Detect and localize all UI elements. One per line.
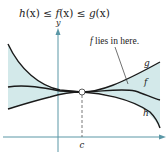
x-axis-arrow-icon xyxy=(159,135,166,140)
label-h: h xyxy=(143,108,149,118)
label-g: g xyxy=(144,58,150,68)
annotation-text: f lies in here. xyxy=(90,36,139,46)
inequality-title: h(x) ≤ f(x) ≤ g(x) xyxy=(19,7,110,19)
squeeze-theorem-diagram: h(x) ≤ f(x) ≤ g(x) y c f lies in here. g… xyxy=(0,0,168,156)
c-label: c xyxy=(80,140,85,150)
title-h: h xyxy=(19,7,26,19)
point-at-c xyxy=(79,89,85,95)
title-le2: ≤ xyxy=(73,7,88,19)
title-le1: ≤ xyxy=(40,7,55,19)
y-axis-arrow-icon xyxy=(56,28,61,35)
title-x1: (x) xyxy=(26,7,40,19)
title-x3: (x) xyxy=(96,7,110,19)
title-x2: (x) xyxy=(59,7,73,19)
y-axis-label: y xyxy=(55,18,61,27)
annotation-rest: lies in here. xyxy=(93,36,139,46)
annotation-leader-line xyxy=(115,47,128,84)
